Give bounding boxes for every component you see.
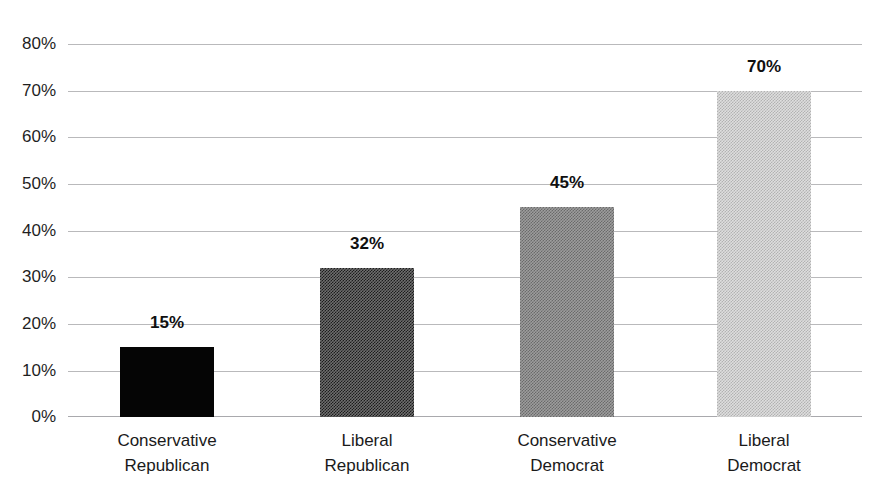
category-line-2: Republican <box>77 453 257 478</box>
y-axis-tick-50: 50% <box>0 174 56 194</box>
category-line-1: Conservative <box>517 431 616 450</box>
value-label-conservative-democrat: 45% <box>520 173 614 193</box>
category-line-2: Democrat <box>674 453 854 478</box>
category-label-conservative-republican: Conservative Republican <box>77 428 257 478</box>
y-axis-tick-20: 20% <box>0 314 56 334</box>
value-label-liberal-republican: 32% <box>320 234 414 254</box>
y-axis-tick-70: 70% <box>0 81 56 101</box>
category-line-2: Democrat <box>477 453 657 478</box>
category-line-1: Liberal <box>341 431 392 450</box>
value-label-liberal-democrat: 70% <box>717 57 811 77</box>
bar-chart: 80% 70% 60% 50% 40% 30% 20% 10% 0% 15% 3… <box>0 0 893 495</box>
category-label-conservative-democrat: Conservative Democrat <box>477 428 657 478</box>
category-label-liberal-democrat: Liberal Democrat <box>674 428 854 478</box>
bar-conservative-democrat[interactable] <box>520 207 614 417</box>
chart-title-cropped <box>0 0 893 10</box>
plot-area <box>68 44 862 417</box>
y-axis-tick-10: 10% <box>0 361 56 381</box>
y-axis-tick-0: 0% <box>0 407 56 427</box>
bar-liberal-republican[interactable] <box>320 268 414 417</box>
category-line-2: Republican <box>277 453 457 478</box>
value-label-conservative-republican: 15% <box>120 313 214 333</box>
y-axis-tick-30: 30% <box>0 267 56 287</box>
gridline-80 <box>68 44 862 45</box>
category-line-1: Conservative <box>117 431 216 450</box>
y-axis-tick-80: 80% <box>0 34 56 54</box>
category-label-liberal-republican: Liberal Republican <box>277 428 457 478</box>
y-axis-tick-40: 40% <box>0 221 56 241</box>
bar-liberal-democrat[interactable] <box>717 91 811 417</box>
bar-conservative-republican[interactable] <box>120 347 214 417</box>
y-axis-tick-60: 60% <box>0 127 56 147</box>
category-line-1: Liberal <box>738 431 789 450</box>
